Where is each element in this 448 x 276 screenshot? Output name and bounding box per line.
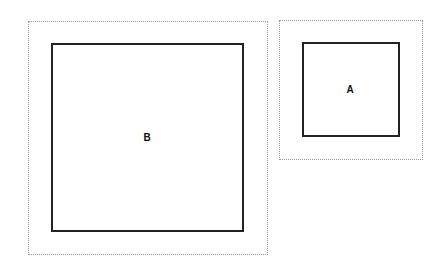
box-a-label: A (346, 84, 353, 95)
box-b-label: B (143, 132, 150, 143)
